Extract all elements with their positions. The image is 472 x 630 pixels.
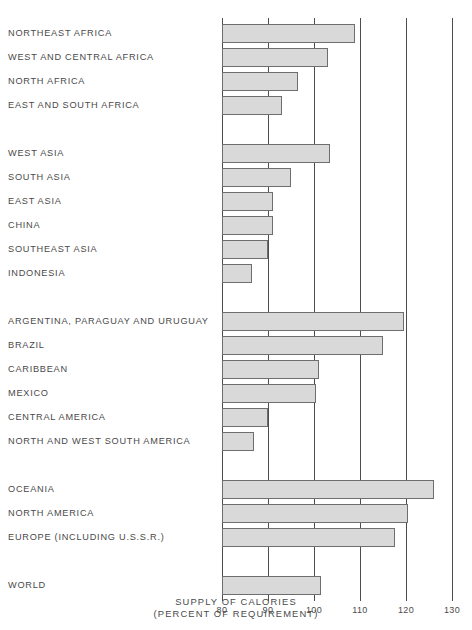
bar [222, 312, 404, 331]
bar [222, 96, 282, 115]
gridline-130 [452, 18, 453, 601]
bar [222, 144, 330, 163]
axis-title-line1: SUPPLY OF CALORIES [175, 596, 297, 607]
bar [222, 192, 273, 211]
bar [222, 168, 291, 187]
bar [222, 360, 319, 379]
bar [222, 72, 298, 91]
calorie-supply-bar-chart: NORTHEAST AFRICAWEST AND CENTRAL AFRICAN… [0, 0, 472, 630]
bar [222, 408, 268, 427]
axis-title-line2: (PERCENT OF REQUIREMENT) [0, 608, 472, 620]
bar [222, 384, 316, 403]
bar [222, 480, 434, 499]
plot-area: 8090100110120130 [0, 0, 472, 585]
bar [222, 432, 254, 451]
bar [222, 528, 395, 547]
bar [222, 336, 383, 355]
bar [222, 576, 321, 595]
bar [222, 240, 268, 259]
bar [222, 216, 273, 235]
bar [222, 48, 328, 67]
axis-title: SUPPLY OF CALORIES (PERCENT OF REQUIREME… [0, 596, 472, 620]
bar [222, 504, 408, 523]
bar [222, 24, 355, 43]
bar [222, 264, 252, 283]
